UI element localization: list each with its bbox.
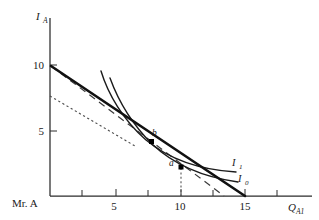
y-axis-title-subscript: A: [42, 16, 48, 25]
y-tick-label-5: 5: [39, 125, 45, 137]
x-axis-ticks: [82, 189, 277, 196]
y-axis-ticks: [50, 65, 57, 131]
x-axis-title-subscript: A1: [295, 207, 304, 216]
x-axis-title: Q: [288, 201, 296, 213]
curve-label-I1-subscript: 1: [239, 163, 243, 171]
budget-line-solid: [51, 66, 245, 196]
curve-label-I0-subscript: 0: [245, 179, 249, 187]
x-tick-label-15: 15: [240, 200, 252, 212]
corner-label-mr-a: Mr. A: [12, 197, 38, 209]
point-marker-b: [149, 139, 154, 144]
axis-titles-group: I A Q A1 Mr. A: [12, 10, 304, 216]
point-label-a: a: [169, 158, 174, 168]
indifference-curve-I0: [110, 78, 238, 182]
chart-canvas: 5 10 15 10 5 I A Q A1 Mr. A: [0, 0, 319, 220]
y-tick-label-10: 10: [33, 59, 45, 71]
curve-label-I0: I: [237, 173, 242, 184]
x-tick-label-10: 10: [175, 200, 187, 212]
point-label-b: b: [152, 128, 157, 138]
point-marker-a: [179, 165, 184, 170]
curve-label-I1: I: [231, 157, 236, 168]
indifference-curve-figure: 5 10 15 10 5 I A Q A1 Mr. A: [0, 0, 319, 220]
y-axis-title: I: [35, 10, 41, 22]
point-labels-group: b a: [152, 128, 174, 168]
x-tick-label-5: 5: [111, 200, 117, 212]
